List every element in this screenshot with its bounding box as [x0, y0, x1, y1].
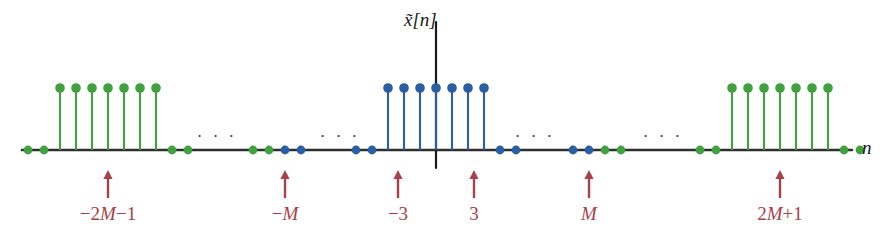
stem-head: [447, 83, 457, 93]
stem-head: [399, 83, 409, 93]
arrow-head: [775, 170, 784, 179]
sample-zero: [840, 146, 849, 155]
annotation-label-marker--3: −3: [388, 204, 408, 223]
sample-zero: [368, 146, 377, 155]
sample-zero: [585, 146, 594, 155]
sample-zero: [24, 146, 33, 155]
stem-head: [151, 83, 161, 93]
ellipsis-right-outer: · · ·: [643, 128, 683, 145]
stem-group-repeated-period-right: [601, 83, 865, 154]
sample-zero: [249, 146, 258, 155]
sample-zero: [352, 146, 361, 155]
stem-head: [87, 83, 97, 93]
stem-head: [775, 83, 785, 93]
annotation-arrow-marker-M: [584, 170, 593, 198]
ellipsis-left-outer: · · ·: [197, 128, 237, 145]
stem-head: [727, 83, 737, 93]
stem-head: [55, 83, 65, 93]
sample-zero: [512, 146, 521, 155]
signal-figure: x̃[n] n −2M−1−M−33M2M+1 · · ·· · ·· · ··…: [0, 0, 896, 236]
y-axis-label: x̃[n]: [404, 10, 437, 29]
arrow-head: [103, 170, 112, 179]
sample-zero: [281, 146, 290, 155]
stem-head: [759, 83, 769, 93]
sample-zero: [712, 146, 721, 155]
sample-zero: [297, 146, 306, 155]
annotation-label-marker-2M+1: 2M+1: [757, 204, 803, 223]
stem-head: [791, 83, 801, 93]
annotation-arrow-marker--3: [393, 170, 402, 198]
sample-zero: [601, 146, 610, 155]
annotation-label-marker--M: −M: [272, 204, 299, 223]
sample-zero: [168, 146, 177, 155]
stem-head: [71, 83, 81, 93]
x-axis-label: n: [862, 138, 872, 157]
sample-zero: [617, 146, 626, 155]
sample-zero: [40, 146, 49, 155]
stem-head: [807, 83, 817, 93]
stem-head: [463, 83, 473, 93]
stem-head: [823, 83, 833, 93]
arrow-head: [280, 170, 289, 179]
stem-head: [103, 83, 113, 93]
sample-zero: [184, 146, 193, 155]
annotation-arrow-marker-3: [469, 170, 478, 198]
annotation-arrow-marker--M: [280, 170, 289, 198]
stem-plot-canvas: [0, 0, 896, 236]
ellipsis-right-inner: · · ·: [515, 128, 555, 145]
annotation-arrow-marker-2M+1: [775, 170, 784, 198]
stem-head: [415, 83, 425, 93]
arrow-head: [584, 170, 593, 179]
stem-head: [479, 83, 489, 93]
stem-head: [383, 83, 393, 93]
sample-zero: [496, 146, 505, 155]
arrow-head: [469, 170, 478, 179]
stem-head: [743, 83, 753, 93]
annotation-arrow-marker--2M-1: [103, 170, 112, 198]
annotation-label-marker-3: 3: [469, 204, 479, 223]
stem-head: [119, 83, 129, 93]
sample-zero: [696, 146, 705, 155]
annotation-label-marker-M: M: [581, 204, 597, 223]
stem-head: [135, 83, 145, 93]
stem-head: [431, 83, 441, 93]
annotation-label-marker--2M-1: −2M−1: [80, 204, 136, 223]
sample-zero: [265, 146, 274, 155]
sample-zero: [569, 146, 578, 155]
ellipsis-left-inner: · · ·: [320, 128, 360, 145]
arrow-head: [393, 170, 402, 179]
